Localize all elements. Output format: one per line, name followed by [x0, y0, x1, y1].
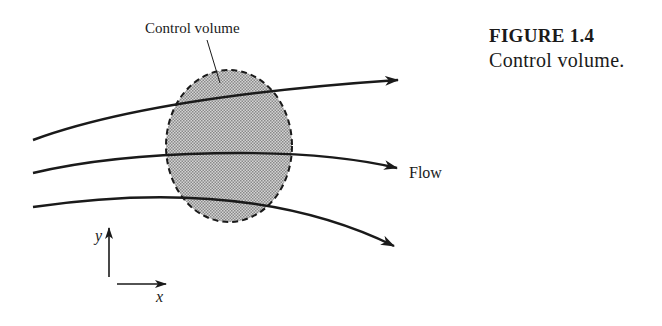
figure-number: FIGURE 1.4 — [489, 24, 625, 48]
x-axis-label: x — [155, 288, 163, 305]
figure-caption: FIGURE 1.4 Control volume. — [489, 24, 625, 72]
figure-caption-text: Control volume. — [489, 48, 625, 72]
y-axis-label: y — [93, 227, 103, 245]
control-volume-region — [166, 70, 292, 222]
control-volume-label: Control volume — [145, 20, 240, 36]
flow-label: Flow — [409, 164, 442, 181]
